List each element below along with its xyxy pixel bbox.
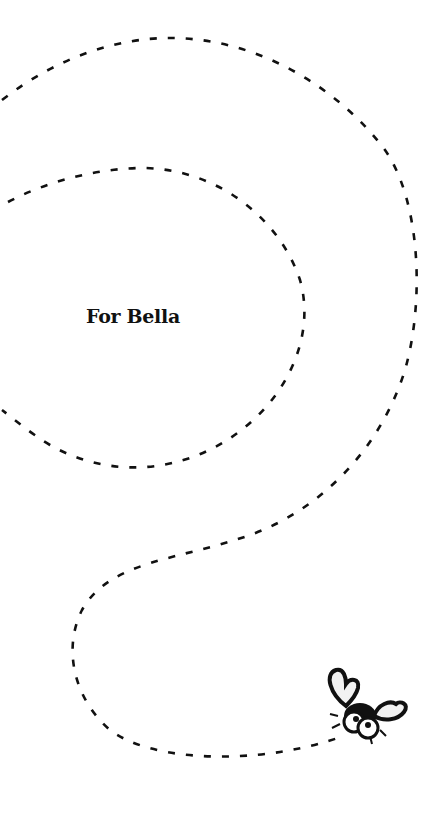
dedication-page: For Bella [0, 0, 424, 833]
dedication-text: For Bella [70, 305, 196, 327]
bug-icon [320, 664, 410, 754]
